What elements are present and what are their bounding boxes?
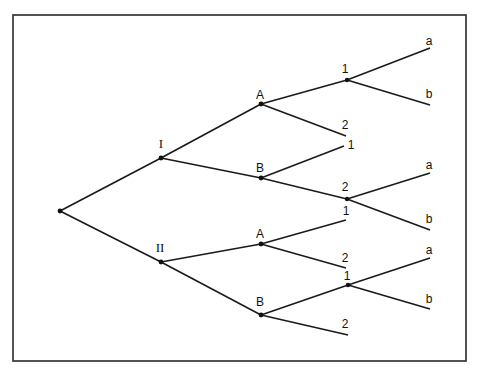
node-I-A [259,102,264,107]
label-I-B-2-a: a [426,158,433,172]
edge-I-B-2 [261,178,347,199]
edge-II-A-2 [261,244,346,268]
node-II-B-1 [346,283,350,287]
node-II [159,260,164,265]
label-I-B-1: 1 [348,138,355,152]
edge-I-B-2-b [347,199,430,230]
edge-I-B [161,158,261,178]
node-II-B [259,313,264,318]
label-I-B-2-b: b [426,212,433,226]
label-II-A: A [256,227,264,241]
edge-II-A [161,244,261,262]
label-I-B-2: 2 [342,180,349,194]
label-II-A-2: 2 [342,251,349,265]
tree-diagram: I II A B A B 1 2 1 2 1 2 1 2 a b a b a b [0,0,480,377]
edge-I-A-2 [261,104,346,136]
edge-I-B-1 [261,146,344,178]
edge-II-B-1-a [348,258,430,285]
edge-II-B [161,262,261,315]
label-I-B: B [256,161,264,175]
edge-root-II [60,211,161,262]
node-I-B [259,176,264,181]
label-II-A-1: 1 [343,204,350,218]
edge-I-A-1-a [347,48,430,80]
node-root [58,209,63,214]
edge-I-A [161,104,261,158]
label-II-B-2: 2 [342,317,349,331]
edge-II-B-1-b [348,285,430,309]
edge-I-A-1 [261,80,347,104]
label-II-B-1-b: b [426,292,433,306]
edge-II-B-2 [261,315,348,335]
label-I-A-1: 1 [342,62,349,76]
label-I-A-2: 2 [342,118,349,132]
label-I-A-1-a: a [426,34,433,48]
node-I-B-2 [345,197,349,201]
diagram-frame [13,15,466,361]
label-II-B-1-a: a [426,243,433,257]
edge-II-A-1 [261,220,346,244]
node-I-A-1 [345,78,349,82]
label-I-A-1-b: b [426,87,433,101]
node-II-A [259,242,264,247]
node-I [159,156,164,161]
label-I: I [159,136,163,151]
edge-root-I [60,158,161,211]
edge-I-A-1-b [347,80,430,105]
label-II: II [156,240,165,255]
label-II-B-1: 1 [344,269,351,283]
label-II-B: B [256,295,264,309]
label-I-A: A [256,88,264,102]
edge-I-B-2-a [347,173,430,199]
edge-II-B-1 [261,285,348,315]
